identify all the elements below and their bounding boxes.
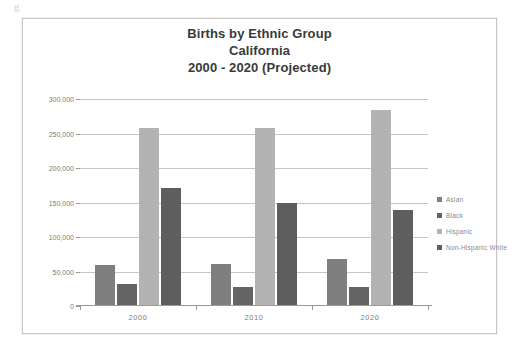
x-axis-line: [76, 305, 432, 306]
bar: [233, 287, 253, 305]
y-axis-label: 150,000: [49, 199, 74, 206]
y-axis-label: 200,000: [49, 165, 74, 172]
bar: [327, 259, 347, 305]
legend-item-label: Black: [446, 212, 463, 219]
bar: [139, 128, 159, 305]
legend-swatch-icon: [437, 197, 442, 202]
plot-area: 050,000100,000150,000200,000250,000300,0…: [80, 99, 428, 306]
y-axis-tick: [76, 272, 80, 273]
chart-title: Births by Ethnic Group California 2000 -…: [23, 25, 496, 76]
legend-item-label: Asian: [446, 196, 463, 203]
legend-item[interactable]: Black: [437, 207, 517, 223]
y-axis-tick: [76, 168, 80, 169]
legend-item[interactable]: Asian: [437, 191, 517, 207]
x-axis-label: 2000: [128, 313, 147, 322]
y-axis-label: 250,000: [49, 130, 74, 137]
y-axis-tick: [76, 203, 80, 204]
y-axis-label: 300,000: [49, 96, 74, 103]
y-axis-tick: [76, 99, 80, 100]
chart-title-line-1: Births by Ethnic Group: [23, 25, 496, 42]
y-axis-label: 0: [70, 303, 74, 310]
legend-item-label: Hispanic: [446, 228, 473, 235]
legend-swatch-icon: [437, 245, 442, 250]
x-axis-label: 2020: [360, 313, 379, 322]
y-axis-label: 50,000: [53, 268, 74, 275]
legend-swatch-icon: [437, 229, 442, 234]
bar: [393, 210, 413, 305]
bar: [211, 264, 231, 305]
y-axis-tick: [76, 134, 80, 135]
x-axis-label: 2010: [244, 313, 263, 322]
x-axis-tick: [428, 306, 429, 310]
bar: [371, 110, 391, 305]
y-axis-tick: [76, 237, 80, 238]
scan-artifact: g: [14, 0, 40, 13]
bar: [255, 128, 275, 305]
chart-title-line-2: California: [23, 42, 496, 59]
bar: [277, 203, 297, 305]
chart-legend: AsianBlackHispanicNon-Hispanic White: [437, 191, 517, 255]
legend-swatch-icon: [437, 213, 442, 218]
bar: [117, 284, 137, 305]
y-axis-label: 100,000: [49, 234, 74, 241]
bar: [95, 265, 115, 305]
chart-title-line-3: 2000 - 2020 (Projected): [23, 59, 496, 76]
legend-item-label: Non-Hispanic White: [446, 244, 507, 251]
legend-item[interactable]: Hispanic: [437, 223, 517, 239]
legend-item[interactable]: Non-Hispanic White: [437, 239, 517, 255]
x-axis-tick: [312, 306, 313, 310]
chart-frame: Births by Ethnic Group California 2000 -…: [22, 18, 497, 334]
bar: [161, 188, 181, 305]
x-axis-tick: [80, 306, 81, 310]
x-axis-tick: [196, 306, 197, 310]
gridline: [80, 99, 428, 100]
bar: [349, 287, 369, 305]
